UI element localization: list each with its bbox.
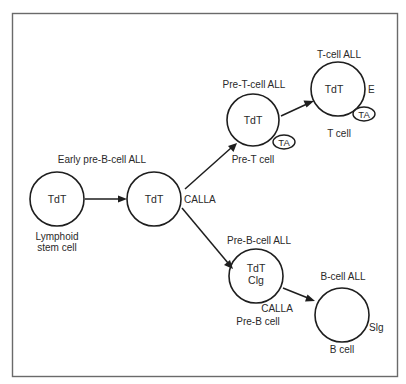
surface-marker-calla: CALLA — [184, 194, 216, 205]
surface-marker-slg: Slg — [369, 322, 383, 333]
marker-tdt: TdT — [48, 193, 67, 205]
leukemia-label: Pre-B-cell ALL — [227, 235, 291, 246]
arrow-pre-t-to-t-cell — [281, 101, 314, 117]
leukemia-label: Early pre-B-cell ALL — [58, 154, 147, 165]
cell-name: T cell — [327, 128, 351, 139]
node-early-pre-b: Early pre-B-cell ALL TdT CALLA — [58, 154, 216, 226]
ta-label: TA — [278, 137, 290, 148]
arrowhead-icon — [304, 101, 315, 108]
marker-tdt: TdT — [325, 83, 344, 95]
arrow-stem-to-early-pre-b — [85, 196, 127, 203]
arrowhead-icon — [305, 295, 315, 302]
surface-marker-e: E — [368, 84, 375, 95]
arrow-early-pre-b-to-pre-t — [185, 143, 237, 189]
leukemia-label: B-cell ALL — [320, 271, 365, 282]
node-pre-t: Pre-T-cell ALL TdT TA Pre-T cell — [223, 79, 295, 165]
arrowhead-icon — [228, 143, 237, 152]
node-b-cell: B-cell ALL Slg B cell — [315, 271, 383, 355]
marker-clg: Clg — [248, 274, 264, 286]
cell-circle — [315, 288, 369, 342]
cell-name: Pre-B cell — [236, 316, 279, 327]
cell-name: B cell — [330, 344, 354, 355]
leukemia-label: T-cell ALL — [317, 49, 361, 60]
cell-name: Pre-T cell — [232, 154, 275, 165]
node-pre-b: Pre-B-cell ALL TdT Clg CALLA Pre-B cell — [227, 235, 293, 327]
cell-name-line1: Lymphoid — [36, 231, 79, 242]
arrow-pre-b-to-b-cell — [283, 288, 315, 302]
marker-tdt: TdT — [244, 114, 263, 126]
cell-name-line2: stem cell — [37, 242, 76, 253]
lymphoid-differentiation-diagram: TdT Lymphoid stem cell Early pre-B-cell … — [0, 0, 406, 384]
marker-tdt: TdT — [247, 262, 266, 274]
marker-tdt: TdT — [145, 193, 164, 205]
node-lymphoid-stem-cell: TdT Lymphoid stem cell — [30, 172, 84, 253]
surface-marker-calla: CALLA — [261, 303, 293, 314]
arrow-early-pre-b-to-pre-b — [182, 208, 233, 269]
leukemia-label: Pre-T-cell ALL — [223, 79, 286, 90]
arrowhead-icon — [118, 196, 127, 203]
node-t-cell: T-cell ALL TdT E TA T cell — [311, 49, 375, 139]
ta-label: TA — [358, 109, 370, 120]
